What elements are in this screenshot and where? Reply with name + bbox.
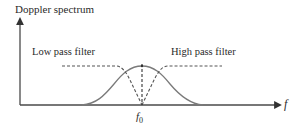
x-axis-label: f	[284, 98, 287, 110]
low-pass-filter-curve	[62, 66, 142, 105]
doppler-diagram	[0, 0, 301, 125]
low-pass-filter-label: Low pass filter	[32, 47, 95, 58]
y-axis-label: Doppler spectrum	[15, 4, 94, 15]
high-pass-filter-label: High pass filter	[171, 47, 236, 58]
center-frequency-label: f0	[136, 111, 143, 125]
high-pass-filter-curve	[142, 66, 222, 105]
